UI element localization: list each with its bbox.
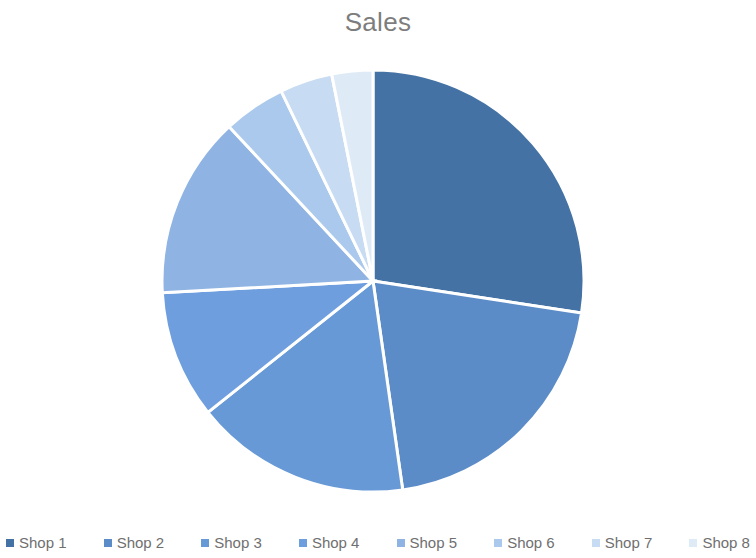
legend-item-1[interactable]: Shop 1 <box>6 535 67 551</box>
legend-swatch-icon <box>299 539 307 547</box>
legend-item-label: Shop 5 <box>410 535 458 551</box>
legend-item-6[interactable]: Shop 6 <box>494 535 555 551</box>
legend-item-label: Shop 4 <box>312 535 360 551</box>
legend-item-label: Shop 1 <box>19 535 67 551</box>
legend-item-2[interactable]: Shop 2 <box>104 535 165 551</box>
pie-chart-container: Sales Shop 1: 27.4%Shop 2: 20.3%Shop 3: … <box>0 0 756 558</box>
chart-title: Sales <box>0 2 756 42</box>
legend-item-label: Shop 8 <box>702 535 750 551</box>
pie-slice-1[interactable]: Shop 1: 27.4% <box>373 70 584 313</box>
legend-item-4[interactable]: Shop 4 <box>299 535 360 551</box>
legend-swatch-icon <box>397 539 405 547</box>
legend-item-label: Shop 2 <box>117 535 165 551</box>
legend-swatch-icon <box>592 539 600 547</box>
legend-item-8[interactable]: Shop 8 <box>689 535 750 551</box>
legend-swatch-icon <box>689 539 697 547</box>
chart-legend: Shop 1Shop 2Shop 3Shop 4Shop 5Shop 6Shop… <box>0 528 756 558</box>
legend-item-label: Shop 6 <box>507 535 555 551</box>
legend-item-7[interactable]: Shop 7 <box>592 535 653 551</box>
legend-swatch-icon <box>104 539 112 547</box>
legend-swatch-icon <box>201 539 209 547</box>
legend-item-label: Shop 3 <box>214 535 262 551</box>
pie-svg: Shop 1: 27.4%Shop 2: 20.3%Shop 3: 16.6%S… <box>0 44 756 506</box>
pie-plot-area: Shop 1: 27.4%Shop 2: 20.3%Shop 3: 16.6%S… <box>0 44 756 506</box>
legend-swatch-icon <box>6 539 14 547</box>
pie-slice-2[interactable]: Shop 2: 20.3% <box>373 281 582 490</box>
legend-swatch-icon <box>494 539 502 547</box>
pie-slice-group: Shop 1: 27.4%Shop 2: 20.3%Shop 3: 16.6%S… <box>162 70 584 492</box>
legend-item-label: Shop 7 <box>605 535 653 551</box>
legend-item-5[interactable]: Shop 5 <box>397 535 458 551</box>
legend-item-3[interactable]: Shop 3 <box>201 535 262 551</box>
